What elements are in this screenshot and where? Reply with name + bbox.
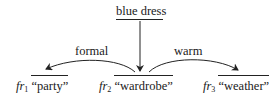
frame-index: 3 (211, 85, 215, 94)
frame-word: “party” (31, 75, 68, 93)
frame-index: 2 (107, 85, 111, 94)
edge-label-warm: warm (174, 44, 202, 58)
frame-word: “weather” (218, 75, 269, 93)
frame-node-3: fr3 “weather” (203, 75, 269, 97)
edge-label-formal: formal (75, 44, 108, 58)
formal-arrow (46, 60, 135, 72)
frame-word: “wardrobe” (114, 75, 172, 93)
warm-arrow (149, 60, 238, 72)
frame-index: 1 (24, 85, 28, 94)
source-node-label: blue dress (116, 4, 166, 18)
frame-node-2: fr2 “wardrobe” (99, 75, 173, 97)
frame-node-1: fr1 “party” (16, 75, 68, 97)
